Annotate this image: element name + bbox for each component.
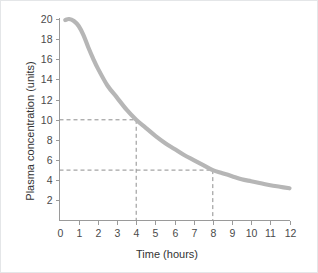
x-tick-label: 2	[96, 227, 102, 239]
y-tick-label: 16	[41, 53, 53, 65]
y-axis-title: Plasma concentration (units)	[24, 61, 36, 200]
y-tick-label: 12	[41, 94, 53, 106]
x-tick-label: 7	[192, 227, 198, 239]
y-tick-label: 18	[41, 33, 53, 45]
x-axis-title: Time (hours)	[136, 248, 198, 260]
y-axis-ticks	[56, 20, 60, 201]
y-tick-label: 4	[47, 174, 53, 186]
x-tick-label: 6	[173, 227, 179, 239]
x-tick-label: 9	[230, 227, 236, 239]
plasma-concentration-curve	[65, 19, 289, 188]
plot-area: Plasma concentration (units) Time (hours…	[1, 1, 318, 273]
y-axis-tick-labels: 2468101214161820	[41, 13, 53, 206]
x-axis-tick-labels: 0123456789101112	[58, 227, 297, 239]
x-axis-ticks	[80, 221, 291, 225]
y-tick-label: 6	[47, 154, 53, 166]
x-tick-label: 11	[265, 227, 276, 239]
x-tick-label: 4	[134, 227, 140, 239]
x-tick-label: 3	[115, 227, 121, 239]
y-tick-label: 10	[41, 114, 53, 126]
y-tick-label: 14	[41, 73, 53, 85]
x-tick-label: 5	[153, 227, 159, 239]
y-tick-label: 20	[41, 13, 53, 25]
y-tick-label: 2	[47, 194, 53, 206]
chart-figure: Plasma concentration (units) Time (hours…	[0, 0, 318, 273]
x-tick-label: 8	[211, 227, 217, 239]
x-tick-label: 1	[77, 227, 83, 239]
x-tick-label: 12	[285, 227, 297, 239]
x-tick-label: 10	[246, 227, 258, 239]
x-tick-label: 0	[58, 227, 64, 239]
guide-lines	[60, 120, 213, 221]
y-tick-label: 8	[47, 134, 53, 146]
